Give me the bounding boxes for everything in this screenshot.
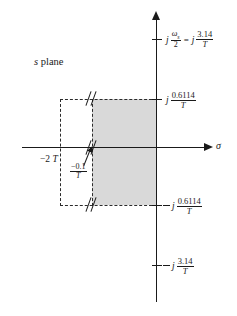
minus-dash-0-6114 <box>163 205 170 206</box>
denominator: T <box>177 266 194 276</box>
jw-axis-arrow-icon <box>152 11 160 20</box>
lower-bound-fraction: 0.6114 T <box>177 197 202 216</box>
axis-break-icon-bottom <box>84 197 100 213</box>
tick-negative-0-6114 <box>152 205 162 206</box>
jw-axis <box>156 18 157 302</box>
shaded-acceptable-region <box>92 99 157 205</box>
bottom-fraction: 3.14 T <box>177 257 194 276</box>
numerator: 3.14 <box>177 257 194 266</box>
equals-sign: = <box>184 35 189 45</box>
minus-two-value: −2 <box>40 154 50 164</box>
omega-s-denominator: 2 <box>171 40 181 49</box>
s-plane-label: s plane <box>34 57 63 68</box>
tick-negative-3-14 <box>152 265 162 266</box>
sigma-axis <box>22 147 206 148</box>
j-symbol-2: j <box>192 35 195 45</box>
tick-positive-0-6114 <box>152 99 162 100</box>
denominator: T <box>177 206 202 216</box>
j-symbol: j <box>172 201 175 211</box>
label-upper-boundary: j 0.6114 T <box>166 91 196 110</box>
s-plane-figure: s plane σ j ωs 2 = j 3.14 T j 0.6114 T j… <box>0 0 237 316</box>
denominator: T <box>196 39 213 49</box>
denominator: T <box>70 171 87 180</box>
dashed-left-boundary <box>60 99 61 206</box>
label-left-real-bound: −2 T <box>40 154 58 164</box>
omega-s-over-2-fraction: ωs 2 <box>171 30 181 49</box>
dashed-upper-boundary <box>60 99 157 100</box>
label-negative-omega-s-over-2: j 3.14 T <box>172 257 194 276</box>
tick-positive-3-14 <box>152 39 162 40</box>
s-plane-word: plane <box>38 56 63 67</box>
j-symbol: j <box>172 261 175 271</box>
numerator: 3.14 <box>196 30 213 39</box>
axis-break-icon-top <box>84 91 100 107</box>
numerator: 0.6114 <box>177 197 202 206</box>
numerator: 0.6114 <box>171 91 196 100</box>
denominator: T <box>171 100 196 110</box>
three-fourteen-over-t-fraction: 3.14 T <box>196 30 213 49</box>
dashed-lower-boundary <box>60 205 157 206</box>
minus-dash-3-14 <box>163 265 170 266</box>
sigma-axis-label: σ <box>216 141 221 151</box>
omega-s-numerator: ωs <box>171 30 181 40</box>
pointer-arrow-icon <box>84 146 98 168</box>
upper-bound-fraction: 0.6114 T <box>171 91 196 110</box>
j-symbol: j <box>166 35 169 45</box>
t-variable: T <box>52 154 57 164</box>
sigma-axis-arrow-icon <box>204 143 213 151</box>
label-lower-boundary: j 0.6114 T <box>172 197 202 216</box>
label-omega-s-over-2: j ωs 2 = j 3.14 T <box>166 30 213 49</box>
j-symbol: j <box>166 95 169 105</box>
